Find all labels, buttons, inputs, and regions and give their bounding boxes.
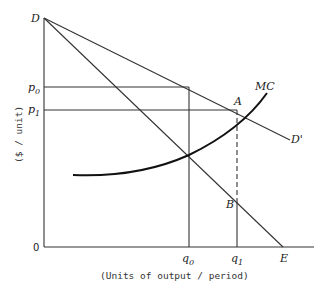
label-e: E: [279, 252, 288, 265]
x-axis-title: (Units of output / period): [100, 270, 249, 281]
label-p0: p0: [28, 81, 40, 96]
label-origin: 0: [33, 242, 39, 253]
label-a: A: [233, 95, 242, 108]
label-d-prime: D': [290, 133, 303, 146]
label-p1: p1: [28, 103, 40, 118]
label-q0: q0: [182, 252, 194, 267]
label-d: D: [30, 12, 40, 25]
y-axis-title: ($ / unit): [13, 106, 24, 163]
label-mc: MC: [254, 80, 275, 93]
marginal-revenue-line-d-e: [44, 18, 283, 247]
demand-curve-d-dprime: [44, 18, 290, 140]
label-q1: q1: [231, 252, 243, 267]
monopoly-pricing-diagram: D D' MC A B E 0 p0 p1 q0 q1 (Units of ou…: [0, 0, 320, 287]
label-b: B: [225, 198, 234, 211]
